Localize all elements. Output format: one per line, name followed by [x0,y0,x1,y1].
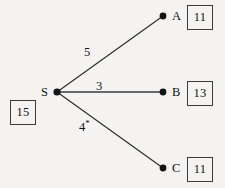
asterisk-icon: * [85,118,90,128]
node-dot-c[interactable] [160,165,167,172]
value-box-b: 13 [187,81,213,106]
edge-label-s-b: 3 [96,80,102,93]
value-box-c: 11 [187,157,213,182]
node-label-b: B [172,86,180,99]
edge-label-s-a: 5 [84,46,90,59]
node-label-s: S [41,86,48,99]
edge-label-s-c: 4* [79,121,90,134]
node-label-c: C [172,162,180,175]
node-dot-b[interactable] [160,89,167,96]
value-box-a: 11 [187,5,213,30]
diagram-canvas: S 15 A 11 B 13 C 11 5 3 4* [0,0,225,188]
edge-s-to-a [57,16,163,92]
node-dot-a[interactable] [160,13,167,20]
node-label-a: A [172,10,181,23]
edge-s-to-c [57,92,163,168]
node-dot-s[interactable] [53,88,60,95]
value-box-s: 15 [10,100,36,125]
